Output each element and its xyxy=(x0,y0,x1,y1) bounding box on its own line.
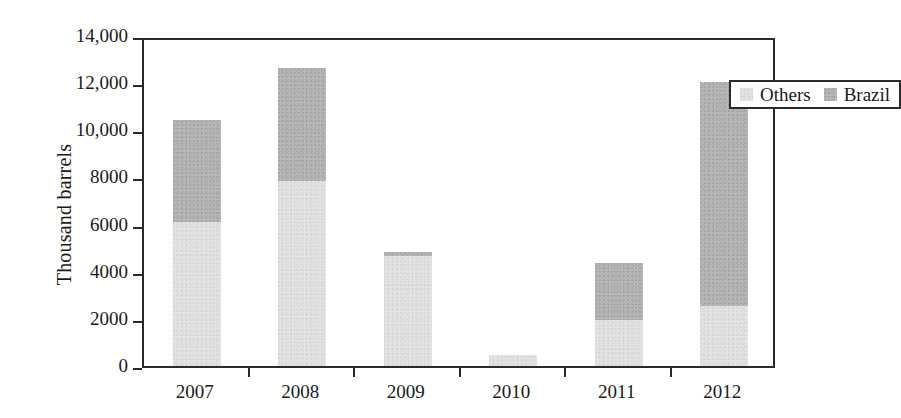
x-tick-mark xyxy=(353,368,355,377)
bar-segment-brazil xyxy=(173,120,221,223)
y-tick-label: 4000 xyxy=(90,261,128,283)
y-tick-mark xyxy=(133,321,142,323)
x-tick-label: 2012 xyxy=(670,381,776,403)
y-tick-label: 10,000 xyxy=(76,119,128,141)
bar xyxy=(278,40,326,366)
bar-segment-others xyxy=(173,222,221,366)
x-tick-label: 2007 xyxy=(142,381,248,403)
legend-label: Others xyxy=(760,85,811,104)
bar xyxy=(384,40,432,366)
chart-legend: OthersBrazil xyxy=(729,80,901,109)
plot-area: OthersBrazil xyxy=(142,38,775,368)
bar-segment-others xyxy=(595,320,643,366)
x-tick-mark xyxy=(459,368,461,377)
bar-segment-brazil xyxy=(384,252,432,257)
y-tick-mark xyxy=(133,368,142,370)
y-tick-label: 14,000 xyxy=(76,25,128,47)
y-tick-mark xyxy=(133,179,142,181)
bar xyxy=(173,40,221,366)
legend-item: Brazil xyxy=(824,85,890,104)
bar-segment-brazil xyxy=(700,82,748,306)
bar-segment-brazil xyxy=(595,263,643,320)
bar-segment-brazil xyxy=(278,68,326,181)
y-tick-label: 12,000 xyxy=(76,72,128,94)
x-tick-mark xyxy=(248,368,250,377)
y-tick-mark xyxy=(133,38,142,40)
y-tick-label: 6000 xyxy=(90,214,128,236)
y-axis-title: Thousand barrels xyxy=(53,65,76,365)
legend-item: Others xyxy=(740,85,811,104)
bar xyxy=(489,40,537,366)
x-tick-label: 2010 xyxy=(459,381,565,403)
y-tick-label: 2000 xyxy=(90,308,128,330)
legend-label: Brazil xyxy=(844,85,890,104)
bar-segment-others xyxy=(489,355,537,366)
y-tick-mark xyxy=(133,227,142,229)
legend-swatch-icon xyxy=(824,88,837,101)
y-tick-mark xyxy=(133,274,142,276)
legend-swatch-icon xyxy=(740,88,753,101)
y-tick-label: 0 xyxy=(119,355,129,377)
x-tick-label: 2008 xyxy=(248,381,354,403)
y-tick-mark xyxy=(133,132,142,134)
bar-segment-others xyxy=(384,256,432,366)
bar-segment-others xyxy=(700,306,748,366)
bar-segment-others xyxy=(278,181,326,366)
y-tick-label: 8000 xyxy=(90,166,128,188)
x-tick-mark xyxy=(564,368,566,377)
x-tick-label: 2011 xyxy=(564,381,670,403)
y-tick-mark xyxy=(133,85,142,87)
x-tick-label: 2009 xyxy=(353,381,459,403)
x-tick-mark xyxy=(670,368,672,377)
bar xyxy=(595,40,643,366)
